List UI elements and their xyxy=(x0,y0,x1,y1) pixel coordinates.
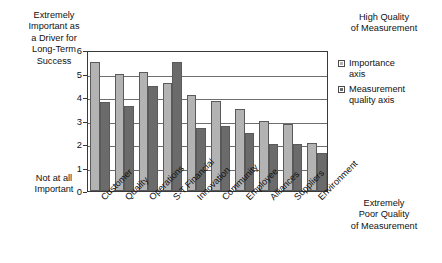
y-axis-tick-label: 2 xyxy=(77,140,82,149)
y-axis-tick-label: 5 xyxy=(77,70,82,79)
bar xyxy=(139,72,149,191)
bar xyxy=(148,86,158,191)
bar-group xyxy=(88,52,112,191)
x-axis-category-labels: CustomerQualityOperationsS-T FinancialIn… xyxy=(87,192,328,262)
y-axis-tick-label: 3 xyxy=(77,117,82,126)
bar xyxy=(90,62,100,191)
legend-item-label: Measurement quality axis xyxy=(349,84,405,106)
chart-legend: Importance axisMeasurement quality axis xyxy=(338,58,438,110)
y-axis-tick-label: 4 xyxy=(77,93,82,102)
dark-square-icon xyxy=(338,86,345,93)
legend-item: Measurement quality axis xyxy=(338,84,438,106)
y-axis-tick-label: 0 xyxy=(77,187,82,196)
light-square-icon xyxy=(338,60,345,67)
caption-bottom-right: Extremely Poor Quality of Measurement xyxy=(330,198,438,232)
legend-item: Importance axis xyxy=(338,58,438,80)
bar xyxy=(293,144,303,191)
y-axis-tick-label: 6 xyxy=(77,46,82,55)
bar xyxy=(100,102,110,191)
bar-group xyxy=(136,52,160,191)
y-axis: 0123456 xyxy=(68,44,87,200)
caption-top-right: High Quality of Measurement xyxy=(330,12,438,35)
bar-chart-figure: Extremely Important as a Driver for Long… xyxy=(0,0,442,263)
y-axis-tick-label: 1 xyxy=(77,164,82,173)
legend-item-label: Importance axis xyxy=(349,58,395,80)
